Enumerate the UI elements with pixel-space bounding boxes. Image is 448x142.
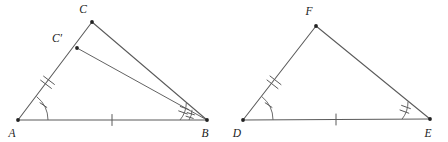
geometry-figure: A B C C′ — [0, 0, 448, 142]
vertex-c-prime-dot — [75, 46, 79, 50]
triangle-def: D E F — [232, 5, 432, 139]
vertex-e-dot — [428, 117, 432, 121]
vertex-b-dot — [205, 118, 209, 122]
vertex-c-dot — [90, 20, 94, 24]
vertex-label-d: D — [232, 127, 242, 139]
vertex-d-dot — [241, 118, 245, 122]
angle-mark-e — [400, 102, 410, 120]
angle-mark-b-lower — [186, 110, 194, 120]
side-df — [243, 26, 316, 120]
vertex-label-a: A — [7, 127, 16, 139]
vertex-f-dot — [314, 24, 318, 28]
angle-mark-a — [37, 97, 48, 120]
side-ef — [316, 26, 430, 119]
vertex-label-f: F — [304, 5, 313, 17]
side-bc — [92, 22, 207, 120]
vertex-label-c: C — [79, 3, 87, 15]
vertex-a-dot — [16, 118, 20, 122]
vertex-label-b: B — [201, 127, 208, 139]
triangle-abc: A B C C′ — [7, 3, 208, 139]
vertex-label-e: E — [423, 127, 431, 139]
angle-mark-d — [262, 97, 273, 120]
geometry-canvas: A B C C′ — [0, 0, 448, 142]
vertex-label-c-prime: C′ — [52, 32, 63, 44]
